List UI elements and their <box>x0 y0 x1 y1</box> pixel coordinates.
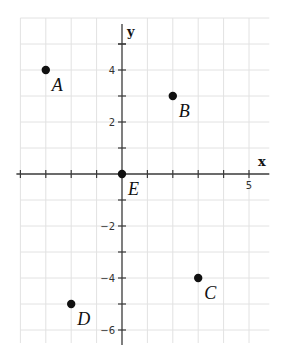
y-tick-label: 4 <box>109 65 115 76</box>
coordinate-plane: 542−2−4−6 x y ABCDE <box>0 0 284 356</box>
point-label: A <box>51 75 64 95</box>
point-label: E <box>127 179 139 199</box>
x-axis-label: x <box>258 154 266 169</box>
point-marker <box>169 92 177 100</box>
axes: 542−2−4−6 x y <box>16 24 269 345</box>
x-tick-label: 5 <box>246 180 252 191</box>
y-tick-label: −6 <box>100 325 115 336</box>
y-tick-label: −2 <box>100 221 115 232</box>
points: ABCDE <box>42 66 218 329</box>
point-label: C <box>204 283 217 303</box>
y-tick-label: −4 <box>100 273 115 284</box>
grid <box>20 18 269 343</box>
point-marker <box>194 274 202 282</box>
point-label: D <box>76 309 90 329</box>
point-marker <box>67 300 75 308</box>
point-marker <box>42 66 50 74</box>
y-tick-label: 2 <box>109 117 115 128</box>
point-label: B <box>179 101 190 121</box>
point-marker <box>118 170 126 178</box>
y-axis-label: y <box>126 24 135 39</box>
